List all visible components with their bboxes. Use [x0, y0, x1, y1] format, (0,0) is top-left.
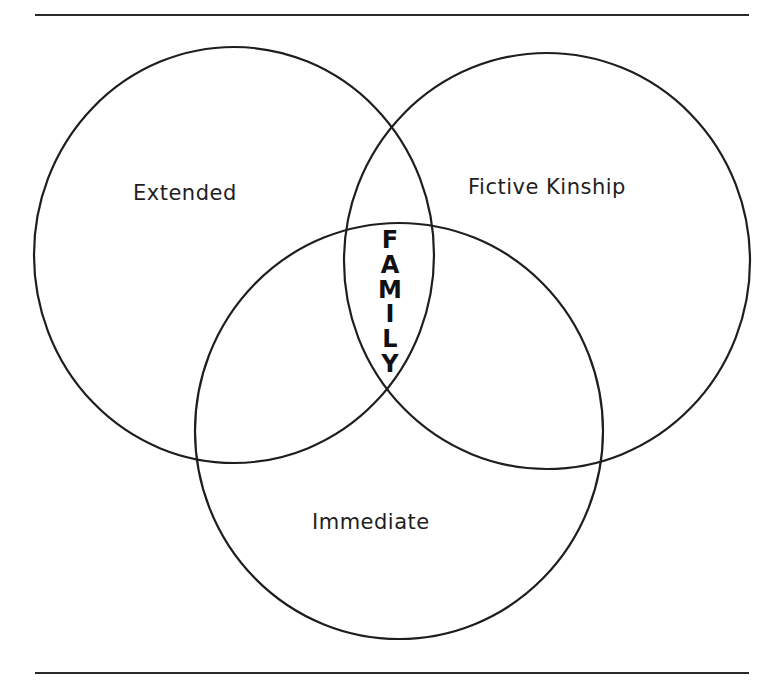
- family-letter: Y: [381, 352, 398, 377]
- label-extended: Extended: [133, 181, 237, 205]
- family-center-label: F A M I L Y: [373, 228, 407, 377]
- family-letter: L: [382, 327, 397, 352]
- family-letter: M: [378, 278, 402, 303]
- label-fictive-kinship: Fictive Kinship: [468, 175, 626, 199]
- label-immediate: Immediate: [312, 510, 430, 534]
- family-letter: I: [386, 302, 395, 327]
- family-letter: F: [382, 228, 398, 253]
- family-letter: A: [381, 253, 400, 278]
